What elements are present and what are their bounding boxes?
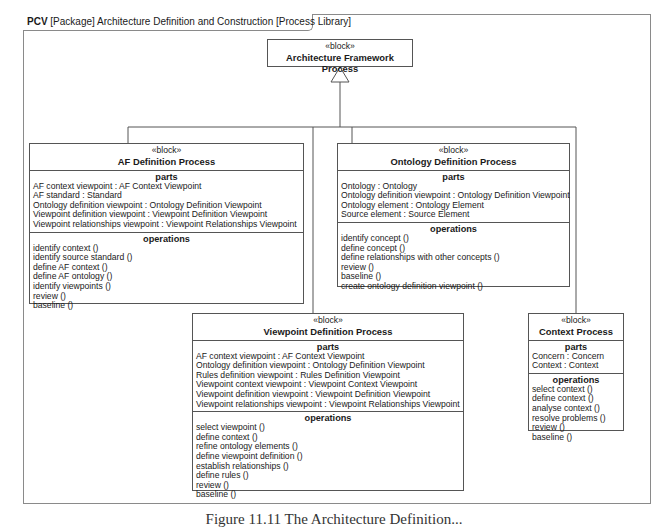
diagram-frame-label: PCV [Package] Architecture Definition an… (23, 14, 313, 31)
part-item: Viewpoint relationships viewpoint : View… (33, 220, 300, 230)
parts-compartment: parts Ontology : Ontology Ontology defin… (338, 171, 569, 222)
block-af-definition-process[interactable]: «block» AF Definition Process parts AF c… (29, 143, 304, 304)
parts-compartment: parts AF context viewpoint : AF Context … (193, 341, 463, 412)
operation-item: baseline () (196, 490, 460, 500)
parts-compartment: parts AF context viewpoint : AF Context … (30, 171, 303, 232)
block-ontology-definition-process[interactable]: «block» Ontology Definition Process part… (337, 143, 570, 287)
operations-compartment: operations identify context () identify … (30, 232, 303, 313)
block-architecture-framework-process[interactable]: «block» Architecture Framework Process (267, 39, 413, 67)
operation-item: create ontology definition viewpoint () (341, 282, 566, 292)
parts-compartment: parts Concern : Concern Context : Contex… (529, 341, 623, 373)
block-name: Viewpoint Definition Process (193, 326, 463, 337)
operation-item: define relationships with other concepts… (341, 253, 566, 263)
operations-compartment: operations select viewpoint () define co… (193, 411, 463, 502)
block-context-process[interactable]: «block» Context Process parts Concern : … (528, 313, 624, 431)
diagram-kind: PCV (27, 16, 48, 27)
stereotype-label: «block» (529, 316, 623, 326)
stereotype-label: «block» (338, 146, 569, 156)
block-name: Architecture Framework Process (268, 52, 412, 74)
part-item: Context : Context (532, 361, 620, 371)
operation-item: review () (33, 292, 300, 302)
stereotype-label: «block» (268, 42, 412, 52)
part-item: Source element : Source Element (341, 210, 566, 220)
block-name: Ontology Definition Process (338, 156, 569, 167)
operation-item: identify viewpoints () (33, 282, 300, 292)
operation-item: define rules () (196, 471, 460, 481)
operation-item: baseline () (532, 433, 620, 443)
block-name: AF Definition Process (30, 156, 303, 167)
figure-caption: Figure 11.11 The Architecture Definition… (0, 511, 668, 528)
block-name: Context Process (529, 326, 623, 337)
block-viewpoint-definition-process[interactable]: «block» Viewpoint Definition Process par… (192, 313, 464, 491)
stereotype-label: «block» (30, 146, 303, 156)
operations-compartment: operations select context () define cont… (529, 373, 623, 445)
stereotype-label: «block» (193, 316, 463, 326)
diagram-title: [Package] Architecture Definition and Co… (50, 16, 351, 27)
operations-compartment: operations identify concept () define co… (338, 222, 569, 294)
operation-item: baseline () (33, 301, 300, 311)
part-item: Viewpoint relationships viewpoint : View… (196, 400, 460, 410)
